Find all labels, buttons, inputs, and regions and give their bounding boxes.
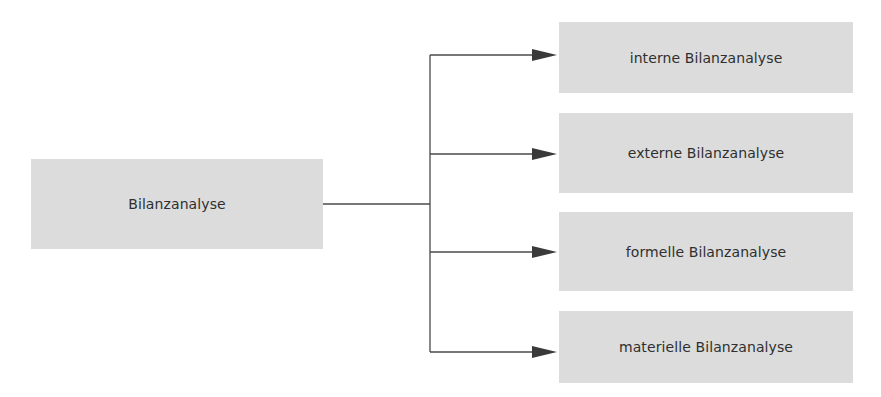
- arrowhead-icon: [532, 346, 557, 358]
- arrowhead-icon: [532, 148, 557, 160]
- child-node-label: formelle Bilanzanalyse: [626, 244, 787, 260]
- child-node-label: externe Bilanzanalyse: [628, 145, 785, 161]
- child-node-formelle: formelle Bilanzanalyse: [559, 212, 853, 291]
- child-node-label: materielle Bilanzanalyse: [619, 339, 793, 355]
- arrowhead-icon: [532, 49, 557, 61]
- root-node: Bilanzanalyse: [31, 159, 323, 249]
- child-node-materielle: materielle Bilanzanalyse: [559, 311, 853, 383]
- root-node-label: Bilanzanalyse: [128, 196, 226, 212]
- child-node-label: interne Bilanzanalyse: [630, 50, 783, 66]
- child-node-externe: externe Bilanzanalyse: [559, 113, 853, 193]
- arrowhead-icon: [532, 246, 557, 258]
- child-node-interne: interne Bilanzanalyse: [559, 22, 853, 93]
